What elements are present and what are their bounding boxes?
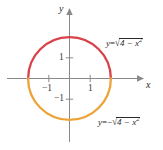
x-tick-label-pos-1: 1	[88, 84, 93, 94]
upper-eq-exponent: 2	[139, 36, 142, 43]
lower-eq-exponent: 2	[136, 115, 139, 122]
x-axis-label: x	[146, 80, 150, 90]
y-axis-label: y	[59, 4, 63, 14]
upper-curve-equation-label: y=√4 − x2	[106, 38, 143, 48]
upper-eq-radicand: 4 − x2	[119, 38, 143, 48]
y-tick-label-neg-1: −1	[54, 94, 64, 104]
y-tick-label-pos-1: 1	[59, 53, 64, 63]
lower-curve-equation-label: y=−√4 − x2	[98, 117, 140, 127]
lower-eq-sqrt-icon: √	[112, 117, 117, 127]
y-axis-arrowhead	[66, 8, 72, 15]
plot-svg	[0, 0, 163, 150]
lower-eq-radicand: 4 − x2	[116, 117, 140, 127]
x-tick-label-neg-1: −1	[42, 84, 52, 94]
upper-eq-radicand-text: 4 − x	[120, 38, 139, 48]
figure-container: y x −1 1 1 −1 y=√4 − x2 y=−√4 − x2	[0, 0, 163, 150]
lower-eq-radicand-text: 4 − x	[117, 117, 136, 127]
x-axis-arrowhead	[137, 75, 144, 81]
upper-eq-sqrt-icon: √	[115, 38, 120, 48]
